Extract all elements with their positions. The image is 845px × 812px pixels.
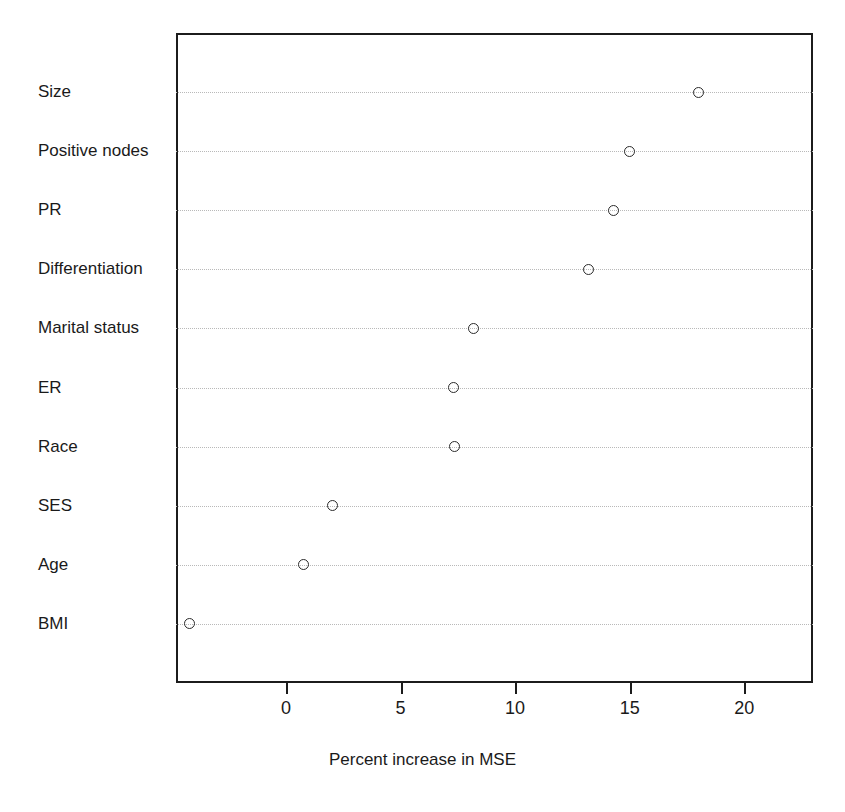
grid-row xyxy=(176,447,813,448)
data-point xyxy=(583,264,594,275)
y-axis-label: SES xyxy=(38,496,72,516)
y-axis-label: Size xyxy=(38,82,71,102)
x-axis-tick-label: 15 xyxy=(620,698,640,719)
y-axis-label: ER xyxy=(38,378,62,398)
data-point xyxy=(184,618,195,629)
x-axis-tick xyxy=(401,683,403,694)
data-point xyxy=(693,87,704,98)
y-axis-label: PR xyxy=(38,200,62,220)
y-axis-label: Marital status xyxy=(38,318,139,338)
x-axis-tick xyxy=(286,683,288,694)
data-point xyxy=(449,441,460,452)
y-axis-label: BMI xyxy=(38,614,68,634)
grid-row xyxy=(176,92,813,93)
data-point xyxy=(608,205,619,216)
x-axis-tick-label: 5 xyxy=(396,698,406,719)
x-axis-tick xyxy=(515,683,517,694)
grid-row xyxy=(176,506,813,507)
y-axis-label: Positive nodes xyxy=(38,141,149,161)
x-axis-tick xyxy=(744,683,746,694)
data-point xyxy=(448,382,459,393)
x-axis-tick-label: 20 xyxy=(734,698,754,719)
variable-importance-plot: SizePositive nodesPRDifferentiationMarit… xyxy=(0,0,845,812)
plot-area xyxy=(176,33,813,683)
data-point xyxy=(327,500,338,511)
grid-row xyxy=(176,328,813,329)
grid-row xyxy=(176,565,813,566)
x-axis-tick xyxy=(630,683,632,694)
grid-row xyxy=(176,624,813,625)
y-axis-label: Race xyxy=(38,437,78,457)
grid-row xyxy=(176,388,813,389)
data-point xyxy=(624,146,635,157)
x-axis-title: Percent increase in MSE xyxy=(0,750,845,770)
data-point xyxy=(298,559,309,570)
y-axis-label: Age xyxy=(38,555,68,575)
x-axis-tick-label: 0 xyxy=(281,698,291,719)
grid-row xyxy=(176,210,813,211)
grid-row xyxy=(176,151,813,152)
grid-row xyxy=(176,269,813,270)
y-axis-label: Differentiation xyxy=(38,259,143,279)
data-point xyxy=(468,323,479,334)
x-axis-tick-label: 10 xyxy=(505,698,525,719)
